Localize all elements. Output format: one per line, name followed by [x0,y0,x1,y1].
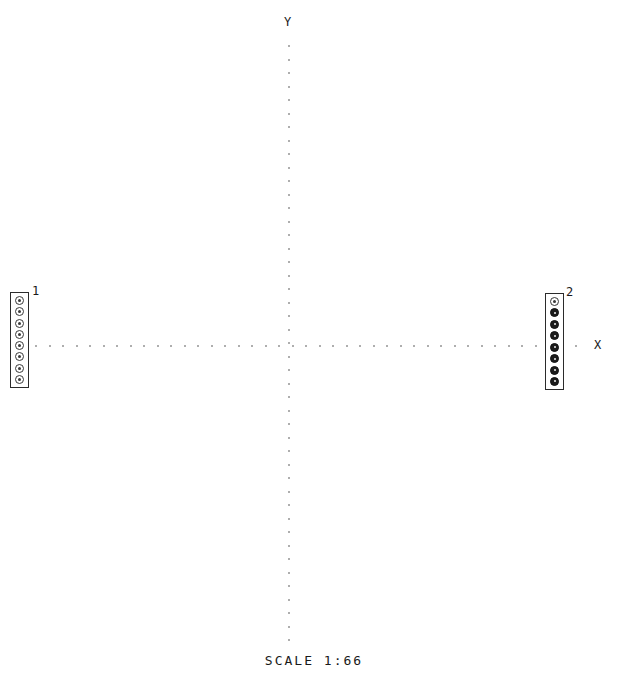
axis-tick-dot [197,345,199,347]
axis-tick-dot [35,345,37,347]
axis-tick-dot [288,356,290,358]
axis-tick-dot [413,345,415,347]
axis-tick-dot [288,248,290,250]
axis-tick-dot [89,345,91,347]
axis-tick-dot [288,194,290,196]
node-marker[interactable] [15,364,24,373]
part-body[interactable] [10,292,29,388]
axis-tick-dot [508,345,510,347]
axis-tick-dot [288,612,290,614]
axis-tick-dot [288,531,290,533]
axis-tick-dot [288,585,290,587]
axis-tick-dot [535,345,537,347]
axis-tick-dot [288,396,290,398]
axis-tick-dot [288,45,290,47]
axis-tick-dot [288,342,290,344]
node-marker[interactable] [550,377,559,386]
axis-tick-dot [305,345,307,347]
axis-tick-dot [288,315,290,317]
node-marker[interactable] [550,331,559,340]
axis-tick-dot [288,599,290,601]
axis-tick-dot [288,329,290,331]
part-label-2: 2 [566,286,573,298]
axis-tick-dot [238,345,240,347]
axis-tick-dot [319,345,321,347]
axis-tick-dot [224,345,226,347]
axis-tick-dot [157,345,159,347]
axis-tick-dot [288,639,290,641]
axis-tick-dot [103,345,105,347]
axis-tick-dot [170,345,172,347]
axis-tick-dot [265,345,267,347]
axis-tick-dot [288,518,290,520]
axis-tick-dot [143,345,145,347]
axis-tick-dot [62,345,64,347]
axis-tick-dot [288,221,290,223]
node-marker[interactable] [550,297,559,306]
node-marker[interactable] [550,354,559,363]
axis-tick-dot [288,207,290,209]
part-body[interactable] [545,293,564,390]
node-marker[interactable] [15,307,24,316]
axis-tick-dot [288,626,290,628]
axis-tick-dot [288,302,290,304]
node-marker[interactable] [550,308,559,317]
axis-tick-dot [288,261,290,263]
node-marker[interactable] [15,319,24,328]
axis-tick-dot [288,288,290,290]
scale-annotation: SCALE 1:66 [0,654,628,667]
axis-tick-dot [288,113,290,115]
axis-tick-dot [288,167,290,169]
node-marker[interactable] [550,366,559,375]
axis-tick-dot [288,275,290,277]
axis-tick-dot [288,180,290,182]
axis-tick-dot [359,345,361,347]
axis-tick-dot [76,345,78,347]
axis-tick-dot [288,86,290,88]
node-marker[interactable] [15,296,24,305]
axis-tick-dot [288,153,290,155]
x-axis-label: X [594,339,602,351]
node-marker[interactable] [550,320,559,329]
axis-tick-dot [454,345,456,347]
axis-tick-dot [481,345,483,347]
axis-tick-dot [288,464,290,466]
axis-tick-dot [288,477,290,479]
axis-tick-dot [288,410,290,412]
axis-tick-dot [332,345,334,347]
axis-tick-dot [467,345,469,347]
drawing-canvas: Y X 12 SCALE 1:66 [0,0,628,692]
node-marker[interactable] [550,343,559,352]
node-marker[interactable] [15,341,24,350]
node-marker[interactable] [15,352,24,361]
part-label-1: 1 [32,285,39,297]
axis-tick-dot [288,383,290,385]
axis-tick-dot [288,99,290,101]
axis-tick-dot [288,450,290,452]
axis-tick-dot [288,572,290,574]
axis-tick-dot [251,345,253,347]
axis-tick-dot [278,345,280,347]
axis-tick-dot [130,345,132,347]
axis-tick-dot [400,345,402,347]
axis-tick-dot [288,140,290,142]
y-axis-label: Y [284,16,292,28]
axis-tick-dot [288,423,290,425]
axis-tick-dot [288,545,290,547]
axis-tick-dot [427,345,429,347]
node-marker[interactable] [15,375,24,384]
axis-tick-dot [292,345,294,347]
axis-tick-dot [373,345,375,347]
axis-tick-dot [346,345,348,347]
axis-tick-dot [288,369,290,371]
axis-tick-dot [116,345,118,347]
axis-tick-dot [288,558,290,560]
axis-tick-dot [521,345,523,347]
axis-tick-dot [440,345,442,347]
node-marker[interactable] [15,330,24,339]
axis-tick-dot [49,345,51,347]
axis-tick-dot [288,126,290,128]
axis-tick-dot [288,504,290,506]
axis-tick-dot [575,345,577,347]
axis-tick-dot [386,345,388,347]
